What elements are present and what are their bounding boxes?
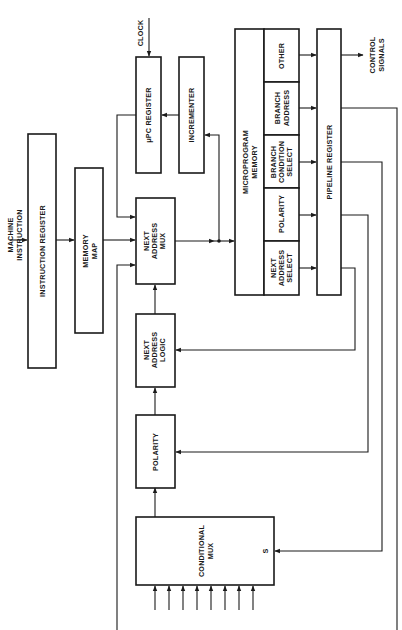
upc-register-block: μPC REGISTER: [136, 57, 161, 173]
svg-text:POLARITY: POLARITY: [277, 195, 286, 233]
svg-text:OTHER: OTHER: [277, 42, 286, 69]
svg-text:INCREMENTER: INCREMENTER: [187, 87, 196, 143]
svg-text:CLOCK: CLOCK: [136, 19, 145, 46]
incrementer-block: INCREMENTER: [179, 57, 204, 173]
microprogram-sequencer-diagram: MACHINEINSTRUCTION INSTRUCTION REGISTER …: [0, 0, 402, 630]
svg-text:μPC REGISTER: μPC REGISTER: [144, 87, 153, 143]
machine-instruction-label: MACHINEINSTRUCTION: [6, 209, 24, 260]
polarity-block: POLARITY: [136, 415, 175, 488]
machine-instruction-input: MACHINEINSTRUCTION: [6, 209, 27, 260]
next-address-mux-block: NEXTADDRESSMUX: [136, 198, 175, 284]
svg-text:CONTROLSIGNALS: CONTROLSIGNALS: [368, 36, 386, 73]
memory-map-block: MEMORYMAP: [75, 168, 103, 333]
instruction-register-block: INSTRUCTION REGISTER: [28, 134, 56, 368]
clock-input: CLOCK: [136, 18, 149, 56]
conditional-mux-block: CONDITIONALMUX S: [136, 517, 274, 585]
svg-text:BRANCHCONDITIONSELECT: BRANCHCONDITIONSELECT: [269, 141, 294, 183]
svg-text:S: S: [261, 549, 270, 554]
svg-text:PIPELINE REGISTER: PIPELINE REGISTER: [325, 124, 334, 199]
microword-fields: OTHER BRANCHADDRESS BRANCHCONDITIONSELEC…: [264, 29, 299, 295]
next-address-logic-block: NEXTADDRESSLOGIC: [136, 314, 175, 387]
microprogram-memory-block: MICROPROGRAMMEMORY: [235, 29, 264, 295]
pipeline-register-block: PIPELINE REGISTER: [317, 29, 341, 295]
svg-text:INSTRUCTION REGISTER: INSTRUCTION REGISTER: [38, 204, 47, 296]
condition-inputs: [155, 586, 253, 610]
control-signals-output: CONTROLSIGNALS: [341, 36, 386, 73]
svg-text:BRANCHADDRESS: BRANCHADDRESS: [273, 90, 291, 127]
svg-text:POLARITY: POLARITY: [151, 433, 160, 471]
